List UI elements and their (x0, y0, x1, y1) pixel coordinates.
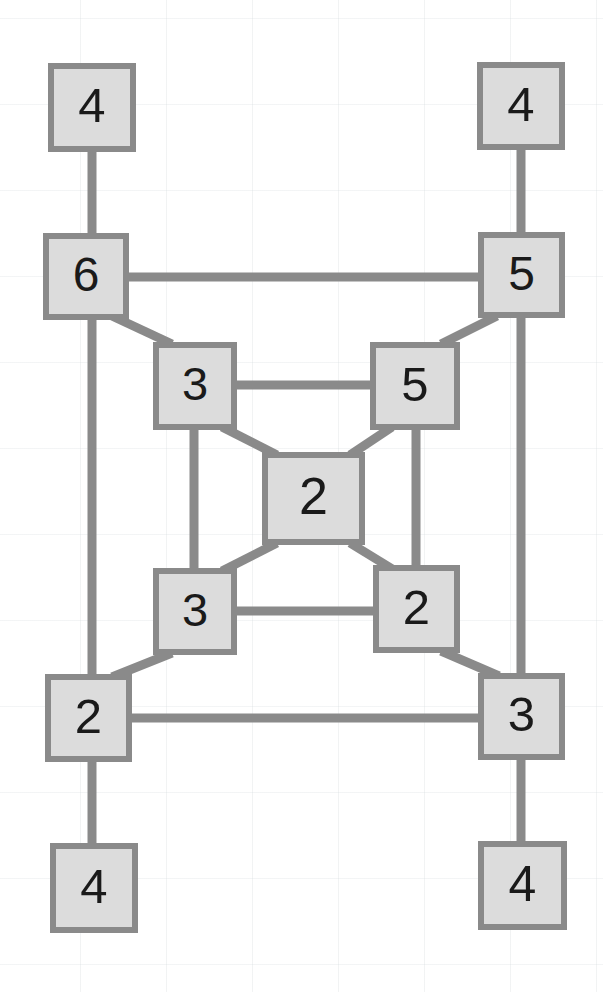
node-link-graph: 4465352322344 (0, 0, 603, 992)
graph-node[interactable]: 2 (48, 677, 129, 759)
node-value-label: 2 (75, 689, 102, 743)
graph-node[interactable]: 3 (156, 571, 234, 652)
node-value-label: 2 (403, 580, 430, 634)
graph-node[interactable]: 4 (51, 66, 133, 149)
graph-edge (350, 427, 392, 455)
node-value-label: 4 (80, 859, 107, 913)
graph-node[interactable]: 4 (53, 846, 135, 930)
node-value-label: 4 (507, 77, 534, 131)
node-value-label: 4 (509, 856, 537, 912)
graph-node[interactable]: 4 (480, 65, 562, 147)
node-value-label: 5 (508, 247, 535, 300)
graph-edge (441, 316, 497, 344)
graph-node[interactable]: 3 (481, 676, 562, 757)
graph-node[interactable]: 5 (373, 345, 457, 427)
node-value-label: 3 (182, 357, 208, 410)
node-value-label: 3 (182, 583, 208, 636)
node-value-label: 2 (299, 467, 328, 525)
graph-edge (222, 427, 277, 455)
node-value-label: 5 (401, 357, 428, 411)
graph-node[interactable]: 3 (156, 345, 234, 427)
diagram-canvas: 4465352322344 (0, 0, 603, 992)
node-layer: 4465352322344 (46, 65, 564, 930)
graph-node[interactable]: 6 (46, 236, 126, 317)
graph-node[interactable]: 4 (481, 844, 564, 927)
graph-node[interactable]: 2 (376, 568, 457, 650)
node-value-label: 4 (78, 78, 105, 132)
graph-edge (112, 653, 172, 677)
graph-edge (222, 543, 277, 571)
graph-node[interactable]: 2 (265, 455, 362, 542)
node-value-label: 3 (508, 687, 535, 741)
graph-edge (441, 651, 499, 676)
graph-edge (112, 316, 172, 344)
graph-node[interactable]: 5 (481, 235, 562, 315)
node-value-label: 6 (73, 248, 100, 301)
